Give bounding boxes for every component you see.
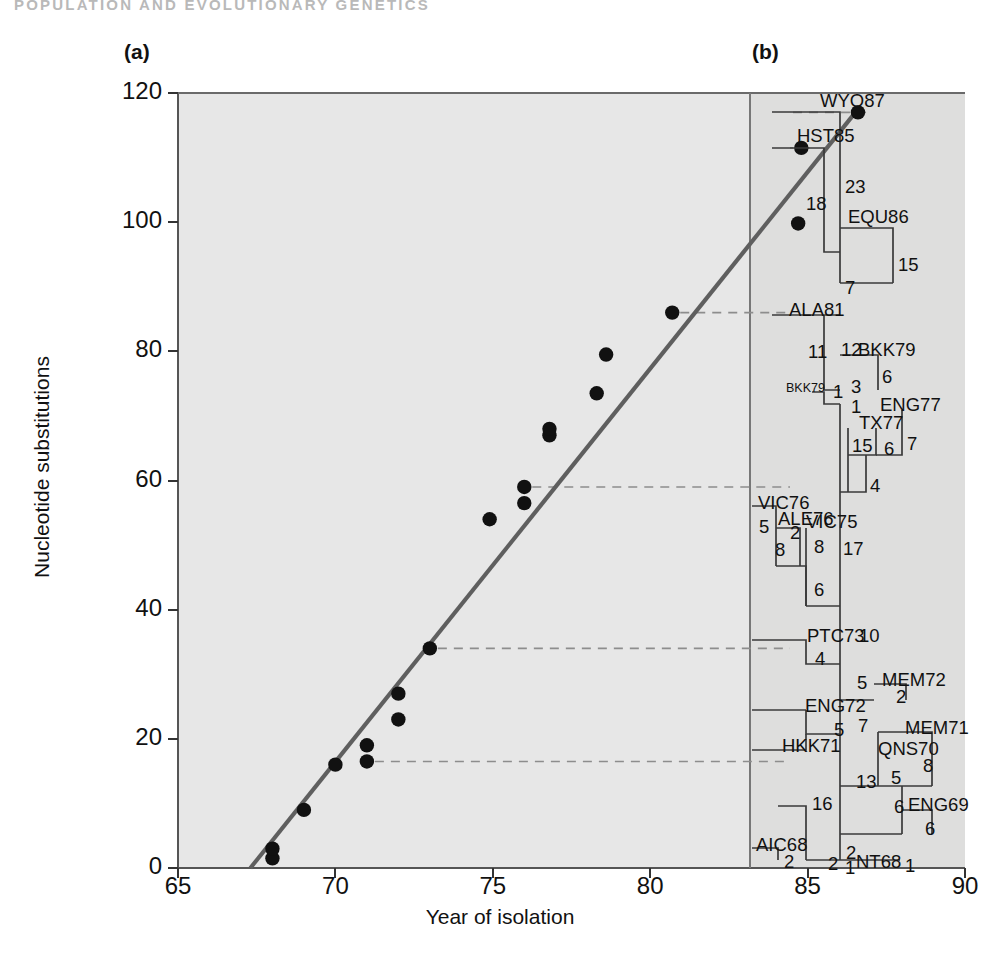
branch-4b: 4 (815, 650, 825, 669)
x-tick-label: 85 (778, 872, 838, 900)
x-axis-label: Year of isolation (330, 905, 670, 929)
x-tick-label: 75 (463, 872, 523, 900)
taxon-vic75: VIC75 (806, 513, 857, 532)
branch-8c: 8 (923, 757, 933, 776)
running-header: POPULATION AND EVOLUTIONARY GENETICS (14, 0, 614, 18)
scatter-point (482, 512, 496, 526)
branch-2c: 2 (784, 853, 794, 872)
y-tick-label: 20 (100, 723, 162, 751)
taxon-ala81: ALA81 (789, 301, 845, 320)
branch-11: 11 (808, 343, 827, 362)
branch-6b: 6 (884, 440, 894, 459)
branch-15b: 15 (852, 437, 873, 456)
x-tick-label: 70 (305, 872, 365, 900)
branch-1c: 1 (845, 859, 855, 878)
taxon-hst85: HST85 (797, 127, 855, 146)
branch-4a: 4 (870, 477, 880, 496)
branch-1d: 1 (905, 857, 915, 876)
plot-area-background (178, 93, 750, 868)
branch-8a: 8 (775, 541, 785, 560)
panel-label-a: (a) (124, 40, 150, 64)
scatter-point (297, 803, 311, 817)
scatter-point (665, 305, 679, 319)
branch-7a: 7 (845, 279, 855, 298)
branch-8b: 8 (814, 538, 824, 557)
panel-label-b: (b) (752, 40, 779, 64)
scatter-point (517, 496, 531, 510)
scatter-point (328, 757, 342, 771)
y-tick-label: 80 (100, 335, 162, 363)
branch-15a: 15 (898, 256, 919, 275)
y-tick-marks (168, 93, 178, 868)
branch-2e: 2 (828, 855, 838, 874)
branch-5a: 5 (759, 518, 769, 537)
taxon-bkk79b: BKK79 (786, 382, 825, 395)
taxon-equ86: EQU86 (848, 208, 909, 227)
y-tick-label: 120 (100, 77, 162, 105)
y-tick-label: 60 (100, 465, 162, 493)
branch-10: 10 (859, 627, 880, 646)
branch-2b: 2 (896, 688, 906, 707)
branch-16: 16 (812, 795, 833, 814)
branch-5d: 5 (891, 769, 901, 788)
scatter-point (391, 686, 405, 700)
taxon-mem72: MEM72 (882, 671, 946, 690)
y-tick-label: 100 (100, 206, 162, 234)
branch-6d: 6 (894, 798, 904, 817)
branch-1a: 1 (833, 383, 843, 402)
scatter-point (542, 422, 556, 436)
taxon-eng69: ENG69 (908, 796, 969, 815)
scatter-point (791, 216, 805, 230)
scatter-point (391, 712, 405, 726)
taxon-nt68: NT68 (856, 853, 901, 872)
branch-2a: 2 (790, 524, 800, 543)
taxon-tx77: TX77 (859, 414, 903, 433)
branch-17: 17 (843, 540, 864, 559)
branch-23: 23 (845, 178, 866, 197)
branch-6e: 6 (925, 820, 935, 839)
taxon-hkk71: HKK71 (782, 737, 841, 756)
y-tick-label: 40 (100, 594, 162, 622)
taxon-wyo87: WYO87 (820, 92, 885, 111)
scatter-point (599, 347, 613, 361)
x-tick-label: 80 (620, 872, 680, 900)
scatter-point (360, 754, 374, 768)
branch-7c: 7 (858, 717, 868, 736)
x-tick-label: 90 (935, 872, 995, 900)
scatter-point (517, 480, 531, 494)
taxon-eng72: ENG72 (805, 697, 866, 716)
taxon-bkk79a: BKK79 (858, 341, 916, 360)
scatter-point (265, 841, 279, 855)
branch-3: 3 (851, 378, 861, 397)
branch-6c: 6 (814, 581, 824, 600)
taxon-ptc73: PTC73 (807, 627, 865, 646)
x-tick-label: 65 (148, 872, 208, 900)
y-axis-label: Nucleotide substitutions (30, 277, 54, 657)
branch-5b: 5 (857, 674, 867, 693)
scatter-point (360, 738, 374, 752)
scatter-point (423, 641, 437, 655)
branch-18: 18 (806, 195, 827, 214)
branch-7b: 7 (907, 435, 917, 454)
branch-13: 13 (856, 773, 877, 792)
scatter-point (589, 386, 603, 400)
taxon-aic68: AIC68 (756, 836, 807, 855)
branch-6a: 6 (882, 368, 892, 387)
taxon-mem71: MEM71 (905, 719, 969, 738)
